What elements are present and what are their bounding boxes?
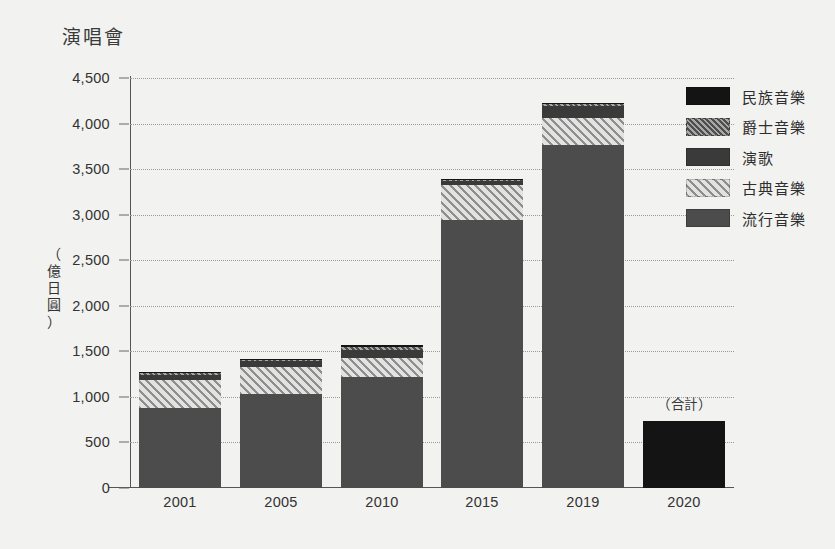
legend-item[interactable]: 爵士音樂 (686, 117, 832, 137)
bar-segment-folk (240, 359, 322, 360)
bar-2010[interactable] (341, 345, 423, 488)
bar-segment-enka (441, 181, 523, 185)
bar-segment-enka (240, 361, 322, 367)
y-axis-title-char: ） (44, 314, 64, 331)
bar-segment-classic (240, 367, 322, 394)
bar-segment-folk (341, 345, 423, 347)
y-axis-tick-label: 1,500 (38, 343, 110, 359)
y-axis-tick (119, 305, 129, 306)
x-axis-tick-label: 2020 (643, 494, 725, 510)
y-axis-tick (119, 169, 129, 170)
bar-2001[interactable] (139, 372, 221, 488)
gridline (130, 124, 734, 125)
y-axis-tick (119, 396, 129, 397)
y-axis-tick (119, 488, 129, 489)
bar-segment-pop (441, 220, 523, 488)
bar-2015[interactable] (441, 179, 523, 488)
bar-segment-pop (139, 408, 221, 488)
bar-segment-total (643, 421, 725, 488)
bar-segment-classic (441, 185, 523, 221)
legend-swatch-icon (686, 209, 730, 227)
total-annotation: （合計） (631, 393, 737, 413)
bar-segment-classic (542, 118, 624, 145)
y-axis-tick-label: 3,500 (38, 161, 110, 177)
bar-segment-pop (240, 394, 322, 488)
legend-item-label: 民族音樂 (742, 86, 806, 107)
y-axis-tick-label: 2,000 (38, 298, 110, 314)
y-axis-tick (119, 351, 129, 352)
bar-segment-jazz (240, 360, 322, 361)
x-axis-tick-label: 2001 (139, 494, 221, 510)
gridline (130, 215, 734, 216)
bar-2019[interactable] (542, 103, 624, 488)
bar-segment-enka (139, 375, 221, 380)
bar-segment-enka (542, 106, 624, 118)
y-axis-tick (119, 442, 129, 443)
y-axis-tick-label: 4,500 (38, 70, 110, 86)
x-axis-tick-label: 2019 (542, 494, 624, 510)
legend-item[interactable]: 流行音樂 (686, 208, 832, 228)
gridline (130, 169, 734, 170)
x-axis-tick-label: 2005 (240, 494, 322, 510)
gridline (130, 351, 734, 352)
bar-segment-jazz (441, 180, 523, 181)
y-axis-tick-label: 0 (38, 480, 110, 496)
legend-item-label: 演歌 (742, 147, 774, 168)
legend-swatch-icon (686, 179, 730, 197)
y-axis-line (130, 76, 131, 488)
legend-swatch-icon (686, 87, 730, 105)
y-axis-tick-label: 2,500 (38, 252, 110, 268)
legend-item[interactable]: 演歌 (686, 147, 832, 167)
y-axis-tick-label: 1,000 (38, 389, 110, 405)
gridline (130, 260, 734, 261)
bar-segment-classic (341, 358, 423, 377)
legend-item-label: 爵士音樂 (742, 116, 806, 137)
y-axis-tick-label: 4,000 (38, 116, 110, 132)
y-axis-tick-label: 500 (38, 434, 110, 450)
bar-segment-pop (542, 145, 624, 488)
chart-legend: 民族音樂爵士音樂演歌古典音樂流行音樂 (686, 86, 832, 239)
bar-segment-jazz (341, 347, 423, 349)
y-axis-title-char: 日 (44, 280, 64, 297)
legend-item-label: 古典音樂 (742, 177, 806, 198)
y-axis-tick-label: 3,000 (38, 207, 110, 223)
legend-item[interactable]: 古典音樂 (686, 178, 832, 198)
x-axis-tick-label: 2015 (441, 494, 523, 510)
bar-segment-folk (441, 179, 523, 180)
legend-item-label: 流行音樂 (742, 208, 806, 229)
bar-segment-folk (139, 372, 221, 373)
gridline (130, 78, 734, 79)
plot-area: 4,5004,0003,5003,0002,5002,0001,5001,000… (130, 78, 734, 488)
y-axis-tick (119, 260, 129, 261)
bar-segment-folk (542, 103, 624, 104)
bar-segment-enka (341, 350, 423, 359)
bar-2005[interactable] (240, 359, 322, 488)
bar-segment-jazz (139, 373, 221, 374)
page-title: 演唱會 (62, 22, 125, 49)
legend-swatch-icon (686, 118, 730, 136)
bar-2020[interactable] (643, 421, 725, 488)
y-axis-tick (119, 78, 129, 79)
chart-page: 演唱會 （ 億 日 圓 ） 4,5004,0003,5003,0002,5002… (0, 0, 835, 549)
legend-swatch-icon (686, 148, 730, 166)
bar-segment-pop (341, 377, 423, 488)
legend-item[interactable]: 民族音樂 (686, 86, 832, 106)
bar-segment-jazz (542, 104, 624, 106)
y-axis-tick (119, 123, 129, 124)
x-axis-tick-label: 2010 (341, 494, 423, 510)
gridline (130, 306, 734, 307)
y-axis-tick (119, 214, 129, 215)
bar-segment-classic (139, 380, 221, 408)
